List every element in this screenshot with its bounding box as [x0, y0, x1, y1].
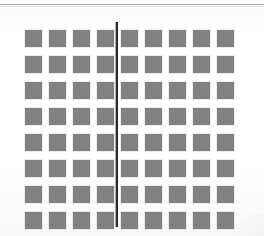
- vertical-bisecting-line: [116, 22, 118, 227]
- page-rule-top-shadow: [0, 6, 264, 7]
- grid-cell: [217, 134, 241, 160]
- grid-square: [49, 56, 66, 73]
- grid-cell: [169, 108, 193, 134]
- grid-square: [193, 108, 210, 125]
- grid-square: [193, 30, 210, 47]
- grid-square: [193, 134, 210, 151]
- grid-cell: [193, 160, 217, 186]
- grid-cell: [193, 30, 217, 56]
- grid-square: [121, 212, 138, 229]
- grid-square: [193, 212, 210, 229]
- grid-cell: [49, 160, 73, 186]
- grid-cell: [145, 134, 169, 160]
- grid-cell: [169, 30, 193, 56]
- grid-square: [49, 30, 66, 47]
- grid-cell: [217, 82, 241, 108]
- grid-square: [217, 82, 234, 99]
- grid-cell: [49, 82, 73, 108]
- grid-square: [193, 82, 210, 99]
- grid-square: [25, 212, 42, 229]
- grid-cell: [25, 108, 49, 134]
- grid-cell: [49, 56, 73, 82]
- grid-square: [169, 30, 186, 47]
- grid-cell: [217, 212, 241, 236]
- grid-cell: [217, 186, 241, 212]
- grid-cell: [145, 30, 169, 56]
- grid-cell: [121, 186, 145, 212]
- grid-square: [193, 186, 210, 203]
- grid-square: [73, 160, 90, 177]
- grid-square: [217, 56, 234, 73]
- grid-square: [217, 30, 234, 47]
- grid-cell: [169, 56, 193, 82]
- grid-square: [97, 108, 114, 125]
- grid-square: [73, 212, 90, 229]
- grid-cell: [73, 56, 97, 82]
- grid-cell: [121, 134, 145, 160]
- grid-cell: [25, 82, 49, 108]
- grid-square: [97, 186, 114, 203]
- grid-square: [145, 82, 162, 99]
- grid-cell: [73, 212, 97, 236]
- grid-square: [49, 108, 66, 125]
- grid-cell: [73, 134, 97, 160]
- grid-square: [49, 186, 66, 203]
- grid-square: [49, 212, 66, 229]
- grid-cell: [193, 134, 217, 160]
- grid-square: [145, 212, 162, 229]
- grid-cell: [193, 56, 217, 82]
- grid-square: [73, 82, 90, 99]
- grid-square: [145, 30, 162, 47]
- grid-square: [49, 134, 66, 151]
- grid-square: [217, 134, 234, 151]
- grid-cell: [145, 212, 169, 236]
- grid-square: [73, 56, 90, 73]
- grid-cell: [49, 30, 73, 56]
- grid-cell: [145, 56, 169, 82]
- grid-square: [97, 212, 114, 229]
- grid-square: [169, 212, 186, 229]
- grid-square: [193, 160, 210, 177]
- grid-cell: [217, 30, 241, 56]
- grid-cell: [169, 82, 193, 108]
- grid-cell: [121, 108, 145, 134]
- grid-square: [73, 30, 90, 47]
- grid-square: [145, 160, 162, 177]
- grid-square: [217, 186, 234, 203]
- grid-square: [145, 186, 162, 203]
- grid-cell: [169, 160, 193, 186]
- grid-square: [169, 82, 186, 99]
- grid-square: [49, 82, 66, 99]
- grid-cell: [169, 212, 193, 236]
- grid-cell: [25, 160, 49, 186]
- grid-cell: [25, 134, 49, 160]
- grid-square: [25, 160, 42, 177]
- grid-square: [169, 134, 186, 151]
- grid-cell: [145, 108, 169, 134]
- grid-square: [145, 56, 162, 73]
- grid-square: [73, 186, 90, 203]
- square-grid: [25, 30, 241, 236]
- grid-cell: [193, 212, 217, 236]
- grid-cell: [121, 56, 145, 82]
- grid-square: [145, 134, 162, 151]
- grid-cell: [73, 82, 97, 108]
- grid-square: [25, 134, 42, 151]
- grid-cell: [73, 160, 97, 186]
- grid-square: [97, 82, 114, 99]
- grid-square: [25, 56, 42, 73]
- grid-cell: [145, 186, 169, 212]
- grid-square: [97, 134, 114, 151]
- grid-square: [97, 56, 114, 73]
- grid-square: [25, 186, 42, 203]
- grid-square: [97, 160, 114, 177]
- grid-square: [25, 108, 42, 125]
- grid-square: [97, 30, 114, 47]
- grid-square: [121, 56, 138, 73]
- grid-cell: [121, 82, 145, 108]
- grid-square: [193, 56, 210, 73]
- grid-cell: [169, 134, 193, 160]
- grid-square: [169, 108, 186, 125]
- grid-cell: [121, 160, 145, 186]
- figure-root: [0, 0, 264, 236]
